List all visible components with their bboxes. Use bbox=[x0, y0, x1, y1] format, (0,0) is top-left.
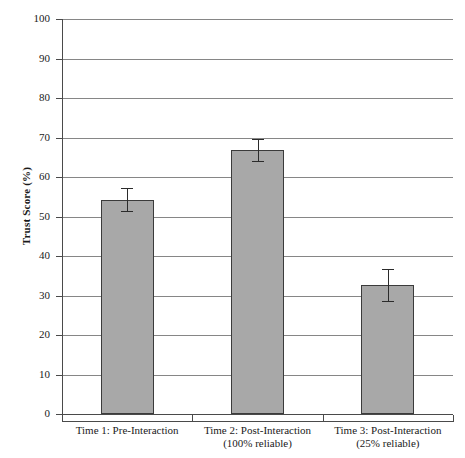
y-tick-label-70: 70 bbox=[4, 132, 50, 143]
error-bar-3 bbox=[388, 269, 389, 301]
bar-3 bbox=[361, 285, 414, 414]
gridline-80 bbox=[62, 98, 453, 99]
x-axis-label-2: Time 2: Post-Interaction(100% reliable) bbox=[192, 424, 322, 450]
y-tick-label-10: 10 bbox=[4, 369, 50, 380]
error-bar-1 bbox=[127, 188, 128, 212]
y-tick-label-100: 100 bbox=[4, 13, 50, 24]
x-tick-3 bbox=[453, 415, 454, 422]
x-tick-1 bbox=[192, 415, 193, 422]
y-tick-label-60: 60 bbox=[4, 171, 50, 182]
x-axis-label-3: Time 3: Post-Interaction(25% reliable) bbox=[323, 424, 453, 450]
error-cap-upper-3 bbox=[382, 269, 394, 270]
gridline-90 bbox=[62, 59, 453, 60]
y-tick-label-20: 20 bbox=[4, 329, 50, 340]
error-cap-lower-2 bbox=[252, 161, 264, 162]
y-tick-label-30: 30 bbox=[4, 290, 50, 301]
error-bar-2 bbox=[258, 139, 259, 161]
bar-2 bbox=[231, 150, 284, 414]
bar-chart: Trust Score (%) 1009080706050403020100 T… bbox=[0, 0, 465, 458]
x-axis-label-line2-3: (25% reliable) bbox=[323, 437, 453, 450]
x-axis-label-1: Time 1: Pre-Interaction bbox=[62, 424, 192, 437]
y-tick-label-50: 50 bbox=[4, 211, 50, 222]
x-axis-label-line1-1: Time 1: Pre-Interaction bbox=[76, 424, 179, 436]
y-tick-label-0: 0 bbox=[4, 408, 50, 419]
gridline-0 bbox=[62, 414, 453, 415]
error-cap-upper-1 bbox=[121, 188, 133, 189]
x-axis-line bbox=[62, 421, 453, 422]
y-tick-label-80: 80 bbox=[4, 92, 50, 103]
plot-area bbox=[62, 19, 453, 414]
gridline-100 bbox=[62, 19, 453, 20]
y-axis-line bbox=[62, 19, 63, 415]
x-tick-2 bbox=[323, 415, 324, 422]
error-cap-lower-3 bbox=[382, 301, 394, 302]
x-tick-0 bbox=[62, 415, 63, 422]
x-axis-label-line1-2: Time 2: Post-Interaction bbox=[204, 424, 311, 436]
y-tick-label-40: 40 bbox=[4, 250, 50, 261]
error-cap-upper-2 bbox=[252, 139, 264, 140]
x-axis-label-line2-2: (100% reliable) bbox=[192, 437, 322, 450]
error-cap-lower-1 bbox=[121, 211, 133, 212]
y-tick-label-90: 90 bbox=[4, 53, 50, 64]
x-axis-label-line1-3: Time 3: Post-Interaction bbox=[334, 424, 441, 436]
bar-1 bbox=[101, 200, 154, 414]
